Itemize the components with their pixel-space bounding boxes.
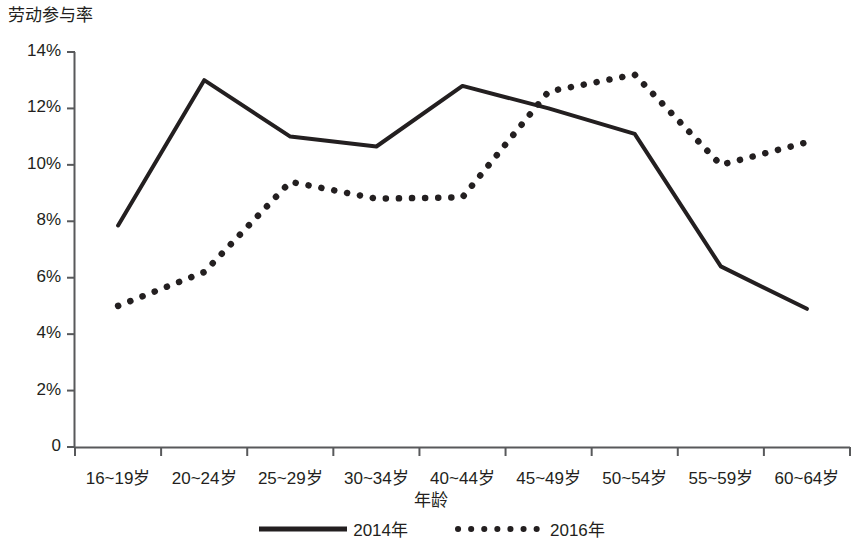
series-line-2016年 bbox=[118, 75, 807, 306]
y-axis-tick-label: 8% bbox=[5, 210, 61, 230]
x-axis-title: 年龄 bbox=[0, 486, 862, 511]
labor-participation-line-chart: 劳动参与率 14%12%10%8%6%4%2%0 16~19岁20~24岁25~… bbox=[0, 0, 862, 542]
y-axis-tick-label: 2% bbox=[5, 380, 61, 400]
legend-label-2016: 2016年 bbox=[550, 516, 605, 541]
data-series-group bbox=[118, 75, 807, 309]
chart-legend: 2014年 2016年 bbox=[0, 516, 862, 541]
legend-item-2014: 2014年 bbox=[257, 516, 408, 541]
y-axis-tick-label: 4% bbox=[5, 323, 61, 343]
y-axis-tick-label: 10% bbox=[5, 154, 61, 174]
legend-swatch-solid bbox=[257, 522, 349, 536]
y-axis-tick-label: 14% bbox=[5, 41, 61, 61]
legend-item-2016: 2016年 bbox=[454, 516, 605, 541]
y-axis-tick-label: 6% bbox=[5, 267, 61, 287]
y-axis-tick-label: 12% bbox=[5, 97, 61, 117]
plot-area bbox=[0, 0, 862, 542]
legend-label-2014: 2014年 bbox=[353, 516, 408, 541]
y-axis-tick-label: 0 bbox=[5, 436, 61, 456]
legend-swatch-dotted bbox=[454, 522, 546, 536]
